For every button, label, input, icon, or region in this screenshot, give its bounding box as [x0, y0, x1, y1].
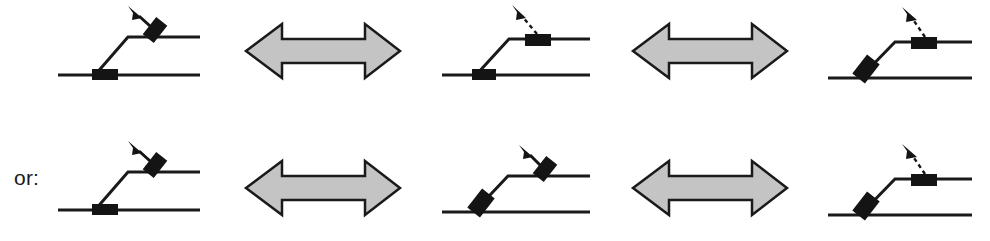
- block-horizontal-base: [472, 69, 496, 80]
- ramp-equivalence-figure: [0, 0, 990, 241]
- block-horizontal-upper: [525, 34, 551, 46]
- block-horizontal-upper: [911, 37, 937, 49]
- figure-root: or:: [0, 0, 990, 241]
- block-horizontal-base: [92, 69, 118, 80]
- or-label: or:: [14, 167, 39, 188]
- block-horizontal-base: [92, 204, 118, 215]
- block-horizontal-upper: [911, 174, 937, 186]
